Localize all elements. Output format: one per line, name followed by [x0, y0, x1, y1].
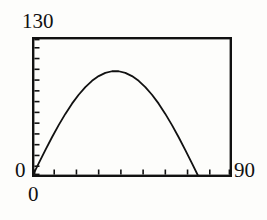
- axis-frame: [33, 38, 231, 176]
- x-axis-origin-label: 0: [28, 184, 39, 205]
- x-axis-max-label: 90: [234, 160, 255, 181]
- plot-svg: [32, 37, 232, 177]
- graph-screenshot: 130 0 0 90: [0, 0, 267, 220]
- y-axis-max-label: 130: [22, 11, 54, 32]
- y-axis-origin-label: 0: [15, 160, 26, 181]
- data-series-line: [32, 71, 232, 177]
- plot-area: [32, 37, 232, 177]
- x-axis-ticks: [35, 170, 230, 175]
- y-axis-ticks: [34, 40, 39, 175]
